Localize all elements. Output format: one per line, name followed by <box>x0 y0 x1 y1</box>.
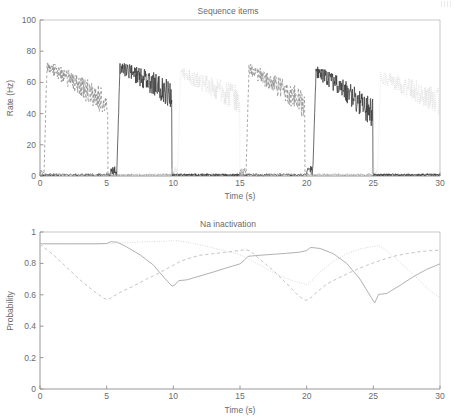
svg-text:0: 0 <box>38 391 43 401</box>
svg-text:15: 15 <box>235 391 245 401</box>
svg-text:30: 30 <box>435 391 445 401</box>
x-axis-label-top: Time (s) <box>225 191 256 201</box>
svg-text:1: 1 <box>31 227 36 237</box>
svg-text:20: 20 <box>302 178 312 188</box>
figure-container: Sequence items 020406080100 051015202530… <box>0 0 456 419</box>
y-axis-label-top: Rate (Hz) <box>5 80 15 117</box>
probability-traces <box>40 241 440 303</box>
x-axis-ticks-bottom: 051015202530 <box>38 386 445 402</box>
svg-text:10: 10 <box>169 391 179 401</box>
svg-text:0.4: 0.4 <box>24 321 36 331</box>
svg-text:5: 5 <box>104 178 109 188</box>
svg-text:30: 30 <box>435 178 445 188</box>
na-inactivation-chart: Na inactivation 00.20.40.60.81 051015202… <box>0 205 456 419</box>
svg-text:80: 80 <box>27 46 37 56</box>
svg-text:100: 100 <box>22 15 36 25</box>
chart-title-na-inactivation: Na inactivation <box>200 219 256 229</box>
y-axis-ticks-bottom: 00.20.40.60.81 <box>24 227 43 394</box>
axes-frame-bottom <box>40 232 440 389</box>
panel-sequence-items: Sequence items 020406080100 051015202530… <box>0 0 456 205</box>
y-axis-label-bottom: Probability <box>5 290 15 330</box>
sequence-items-chart: Sequence items 020406080100 051015202530… <box>0 0 456 205</box>
svg-text:5: 5 <box>104 391 109 401</box>
panel-na-inactivation: Na inactivation 00.20.40.60.81 051015202… <box>0 205 456 419</box>
svg-text:10: 10 <box>169 178 179 188</box>
rate-traces <box>40 63 440 176</box>
svg-text:60: 60 <box>27 77 37 87</box>
svg-text:0: 0 <box>31 171 36 181</box>
svg-text:0.6: 0.6 <box>24 290 36 300</box>
svg-text:25: 25 <box>369 391 379 401</box>
svg-text:0.8: 0.8 <box>24 258 36 268</box>
x-axis-label-bottom: Time (s) <box>225 405 256 415</box>
svg-text:0.2: 0.2 <box>24 353 36 363</box>
svg-text:25: 25 <box>369 178 379 188</box>
svg-text:20: 20 <box>27 140 37 150</box>
svg-text:0: 0 <box>38 178 43 188</box>
svg-text:15: 15 <box>235 178 245 188</box>
chart-title-sequence-items: Sequence items <box>198 6 259 16</box>
svg-text:20: 20 <box>302 391 312 401</box>
svg-text:40: 40 <box>27 109 37 119</box>
svg-text:0: 0 <box>31 384 36 394</box>
